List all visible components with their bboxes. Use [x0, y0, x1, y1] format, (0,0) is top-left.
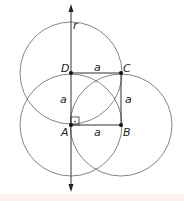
right-angle-dot [74, 121, 76, 123]
label-side-bottom: a [94, 126, 101, 139]
label-d: D [61, 62, 69, 75]
point-d [69, 71, 73, 75]
label-side-right: a [125, 93, 132, 106]
arrow-up-icon [69, 4, 74, 12]
label-side-top: a [94, 61, 101, 74]
arrow-down-icon [69, 184, 74, 192]
label-r: r [73, 19, 79, 32]
point-a [69, 123, 73, 127]
label-a-point: A [60, 126, 69, 139]
label-c: C [123, 62, 131, 75]
label-b: B [123, 126, 131, 139]
bottom-divider-strip [0, 194, 184, 201]
label-side-left: a [60, 93, 67, 106]
square-construction-diagram: r D C A B a a a a [0, 0, 184, 201]
